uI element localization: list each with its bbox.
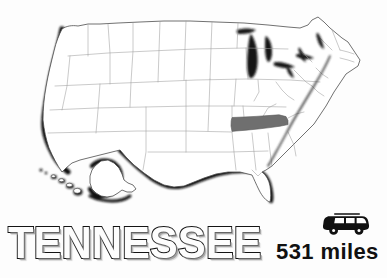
car-window-mid bbox=[346, 218, 355, 223]
distance-label: 531 miles bbox=[276, 238, 384, 266]
hawaii-shadow-dot bbox=[39, 168, 42, 171]
us-map bbox=[0, 0, 387, 212]
car-icon-svg bbox=[322, 212, 370, 238]
distance-block: 531 miles bbox=[276, 212, 384, 270]
hawaii-shadow-dot bbox=[45, 172, 48, 175]
hawaii-island bbox=[59, 179, 64, 182]
page-title: TENNESSEE bbox=[8, 218, 252, 268]
us-map-svg bbox=[0, 0, 387, 212]
tennessee-map-graphic: TENNESSEE 531 miles bbox=[0, 0, 387, 278]
hawaii-island bbox=[51, 175, 55, 178]
car-icon bbox=[322, 212, 370, 238]
car-wheel-rear-hub bbox=[358, 229, 361, 232]
hawaii-island bbox=[66, 183, 72, 187]
car-wheel-front-hub bbox=[332, 229, 335, 232]
hawaii-island bbox=[74, 188, 81, 193]
car-window-front bbox=[334, 218, 344, 223]
state-title-block: TENNESSEE bbox=[8, 218, 270, 268]
car-roof-rail bbox=[334, 213, 360, 215]
